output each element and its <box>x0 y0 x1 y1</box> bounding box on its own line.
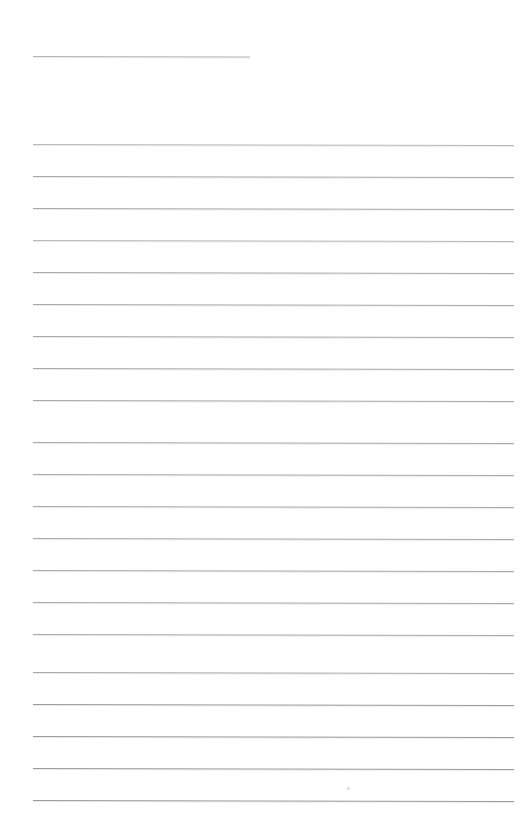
rule-01 <box>33 144 514 146</box>
rule-02 <box>33 176 514 178</box>
rule-12 <box>33 506 514 508</box>
rule-19 <box>33 736 514 738</box>
scanned-page <box>0 0 521 825</box>
rule-17 <box>33 672 514 674</box>
rule-15 <box>33 602 514 604</box>
rule-top-short <box>33 56 250 57</box>
rule-08 <box>33 368 514 370</box>
rule-16 <box>33 634 514 636</box>
rule-09 <box>33 400 514 402</box>
rule-05 <box>33 272 514 274</box>
rule-03 <box>33 208 514 210</box>
rule-14 <box>33 570 514 572</box>
rule-10 <box>33 442 514 444</box>
rule-20 <box>33 768 514 770</box>
scan-speck <box>347 787 350 790</box>
rule-11 <box>33 474 514 476</box>
rule-07 <box>33 336 514 338</box>
rule-13 <box>33 538 514 540</box>
rule-21 <box>33 800 514 802</box>
rule-18 <box>33 704 514 706</box>
rule-04 <box>33 240 514 242</box>
rule-06 <box>33 304 514 306</box>
rule-lines-layer <box>0 0 521 825</box>
